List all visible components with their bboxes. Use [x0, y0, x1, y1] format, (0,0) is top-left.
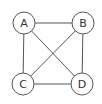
- node-b-label: B: [79, 17, 87, 30]
- node-c: C: [12, 73, 34, 95]
- edge-b-d: [82, 34, 83, 73]
- edge-a-c: [23, 34, 24, 73]
- node-a: A: [13, 12, 35, 34]
- node-c-label: C: [19, 78, 27, 91]
- node-a-label: A: [20, 17, 28, 30]
- graph-diagram: A B C D: [0, 0, 102, 104]
- node-d-label: D: [78, 78, 86, 91]
- node-d: D: [71, 73, 93, 95]
- node-b: B: [72, 12, 94, 34]
- edges: [23, 23, 83, 84]
